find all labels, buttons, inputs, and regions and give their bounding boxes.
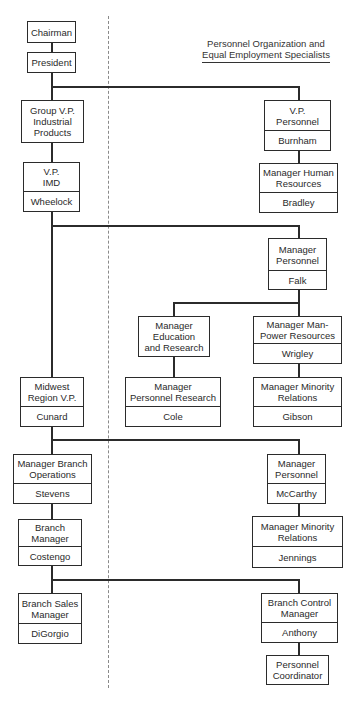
node-role: Branch Manager <box>19 520 81 546</box>
node-role: Group V.P. Industrial Products <box>22 101 83 142</box>
node-mgr-personnel-mccarthy: Manager Personnel McCarthy <box>267 454 326 504</box>
connector <box>173 302 175 316</box>
connector <box>173 302 300 304</box>
node-role: Personnel Coordinator <box>267 656 328 684</box>
node-name: Wrigley <box>254 343 341 363</box>
connector <box>298 439 300 454</box>
node-name: McCarthy <box>268 483 325 503</box>
title-line-2: Equal Employment Specialists <box>202 49 330 63</box>
node-vp-imd: V.P. IMD Wheelock <box>23 162 80 212</box>
connector <box>51 225 300 227</box>
node-name: Burnham <box>265 130 330 150</box>
connector <box>298 86 300 100</box>
node-role: President <box>28 53 75 72</box>
node-role: Midwest Region V.P. <box>21 378 83 406</box>
connector <box>51 439 300 441</box>
node-role: Manager Man- Power Resources <box>254 317 341 343</box>
dashed-divider-line <box>108 16 109 688</box>
node-role: Branch Sales Manager <box>19 594 81 623</box>
node-role: Manager Branch Operations <box>14 455 91 483</box>
node-role: V.P. IMD <box>24 163 79 191</box>
node-chairman: Chairman <box>27 21 76 43</box>
node-name: Cole <box>126 406 220 426</box>
connector <box>51 43 53 52</box>
connector <box>51 579 300 581</box>
node-role: Manager Minority Relations <box>254 378 341 406</box>
node-role: Manager Minority Relations <box>253 517 342 546</box>
node-role: V.P. Personnel <box>265 101 330 130</box>
connector <box>51 143 53 162</box>
node-mgr-education-research: Manager Education and Research <box>138 316 210 357</box>
connector <box>298 225 300 238</box>
node-mgr-branch-ops: Manager Branch Operations Stevens <box>13 454 92 504</box>
node-role: Manager Personnel Research <box>126 378 220 406</box>
node-name: Wheelock <box>24 191 79 211</box>
node-branch-sales-mgr: Branch Sales Manager DiGorgio <box>18 593 82 644</box>
node-mgr-manpower: Manager Man- Power Resources Wrigley <box>253 316 342 364</box>
connector <box>298 579 300 593</box>
node-name: Stevens <box>14 483 91 503</box>
connector <box>298 643 300 655</box>
node-group-vp: Group V.P. Industrial Products <box>21 100 84 143</box>
connector <box>51 212 53 377</box>
node-midwest-vp: Midwest Region V.P. Cunard <box>20 377 84 427</box>
node-mgr-minority-gibson: Manager Minority Relations Gibson <box>253 377 342 427</box>
node-mgr-minority-jennings: Manager Minority Relations Jennings <box>252 516 343 568</box>
node-role: Branch Control Manager <box>262 594 337 622</box>
connector <box>173 357 175 377</box>
connector <box>51 504 53 519</box>
title-line-1: Personnel Organization and <box>196 38 336 49</box>
node-role: Manager Personnel <box>268 455 325 483</box>
node-president: President <box>27 52 76 73</box>
node-name: Cunard <box>21 406 83 426</box>
connector <box>298 151 300 163</box>
connector <box>298 504 300 516</box>
node-name: Bradley <box>260 192 337 212</box>
chart-title: Personnel Organization and Equal Employm… <box>196 38 336 63</box>
node-name: DiGorgio <box>19 623 81 643</box>
node-role: Chairman <box>28 22 75 42</box>
node-vp-personnel: V.P. Personnel Burnham <box>264 100 331 151</box>
node-mgr-human-resources: Manager Human Resources Bradley <box>259 163 338 213</box>
node-mgr-personnel-falk: Manager Personnel Falk <box>268 238 327 290</box>
node-role: Manager Personnel <box>269 239 326 270</box>
node-name: Anthony <box>262 622 337 642</box>
node-role: Manager Human Resources <box>260 164 337 192</box>
node-branch-manager: Branch Manager Costengo <box>18 519 82 566</box>
connector <box>51 86 300 88</box>
node-personnel-coordinator: Personnel Coordinator <box>266 655 329 685</box>
node-role: Manager Education and Research <box>139 317 209 356</box>
node-name: Jennings <box>253 546 342 567</box>
connector <box>298 364 300 377</box>
node-branch-control-mgr: Branch Control Manager Anthony <box>261 593 338 643</box>
node-name: Falk <box>269 270 326 289</box>
node-name: Costengo <box>19 546 81 565</box>
node-name: Gibson <box>254 406 341 426</box>
node-mgr-personnel-research: Manager Personnel Research Cole <box>125 377 221 427</box>
